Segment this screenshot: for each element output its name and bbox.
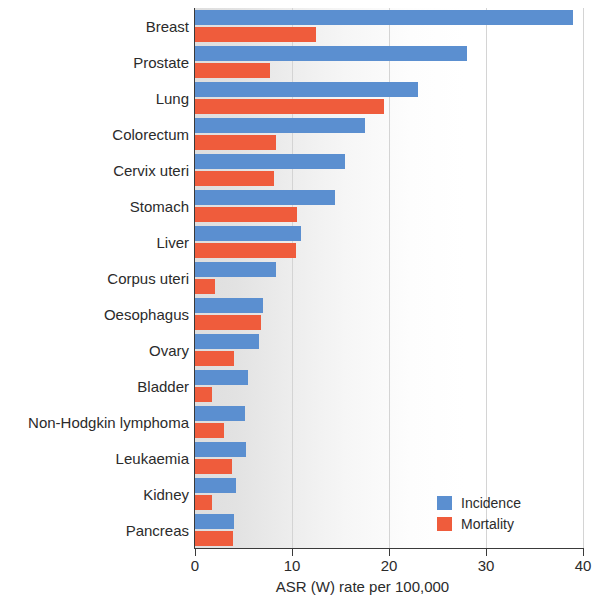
x-tick-label: 0 — [191, 557, 199, 574]
x-axis-title: ASR (W) rate per 100,000 — [0, 578, 593, 595]
bar-incidence — [195, 298, 263, 313]
bar-mortality — [195, 495, 212, 510]
x-tick-label: 30 — [478, 557, 495, 574]
category-label: Corpus uteri — [107, 270, 189, 287]
bar-mortality — [195, 387, 212, 402]
bar-mortality — [195, 279, 215, 294]
bar-incidence — [195, 406, 245, 421]
legend-label: Mortality — [461, 516, 514, 532]
bar-mortality — [195, 351, 234, 366]
category-label: Leukaemia — [116, 450, 189, 467]
bar-incidence — [195, 370, 248, 385]
category-label: Non-Hodgkin lymphoma — [28, 414, 189, 431]
bar-incidence — [195, 118, 365, 133]
gridline-30 — [486, 8, 487, 548]
bar-mortality — [195, 63, 270, 78]
legend-swatch-icon — [437, 517, 452, 531]
bar-incidence — [195, 262, 276, 277]
category-label: Pancreas — [126, 522, 189, 539]
bar-incidence — [195, 226, 301, 241]
category-label: Kidney — [143, 486, 189, 503]
bar-incidence — [195, 10, 573, 25]
bar-incidence — [195, 442, 246, 457]
category-label: Stomach — [130, 198, 189, 215]
bar-mortality — [195, 423, 224, 438]
category-label: Prostate — [133, 54, 189, 71]
x-tick-mark — [292, 549, 293, 556]
x-tick-mark — [389, 549, 390, 556]
legend-label: Incidence — [461, 495, 521, 511]
bar-mortality — [195, 99, 384, 114]
x-tick-mark — [486, 549, 487, 556]
x-tick-label: 10 — [284, 557, 301, 574]
bar-mortality — [195, 243, 296, 258]
category-label: Breast — [146, 18, 189, 35]
bar-incidence — [195, 46, 467, 61]
bar-mortality — [195, 207, 297, 222]
bar-mortality — [195, 531, 233, 546]
category-label: Liver — [156, 234, 189, 251]
bar-mortality — [195, 171, 274, 186]
legend-swatch-icon — [437, 496, 452, 510]
bar-incidence — [195, 82, 418, 97]
category-label: Cervix uteri — [113, 162, 189, 179]
category-label: Ovary — [149, 342, 189, 359]
bar-incidence — [195, 190, 335, 205]
category-label: Lung — [156, 90, 189, 107]
bar-mortality — [195, 315, 261, 330]
bar-mortality — [195, 27, 316, 42]
legend-item: Incidence — [437, 492, 521, 513]
x-tick-mark — [583, 549, 584, 556]
x-tick-mark — [195, 549, 196, 556]
x-axis-title-text: ASR (W) rate per 100,000 — [276, 578, 449, 595]
category-label: Colorectum — [112, 126, 189, 143]
bar-mortality — [195, 459, 232, 474]
bar-incidence — [195, 514, 234, 529]
bar-incidence — [195, 478, 236, 493]
bar-incidence — [195, 334, 259, 349]
bar-incidence — [195, 154, 345, 169]
bar-mortality — [195, 135, 276, 150]
gridline-40 — [583, 8, 584, 548]
category-label: Bladder — [137, 378, 189, 395]
bar-chart: BreastProstateLungColorectumCervix uteri… — [0, 0, 593, 598]
x-tick-label: 20 — [381, 557, 398, 574]
category-label: Oesophagus — [104, 306, 189, 323]
x-tick-label: 40 — [575, 557, 592, 574]
legend: IncidenceMortality — [437, 492, 521, 534]
legend-item: Mortality — [437, 513, 521, 534]
